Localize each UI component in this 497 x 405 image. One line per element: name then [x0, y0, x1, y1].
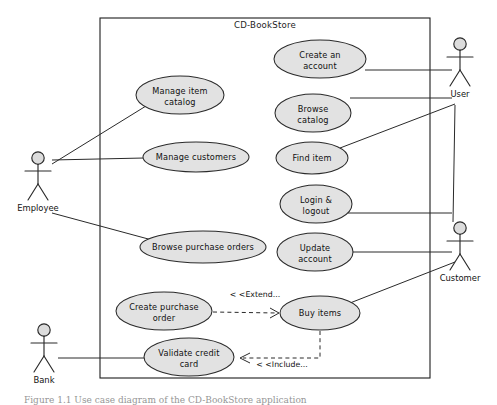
actor-label: Bank — [33, 375, 54, 385]
actor-leg-right — [460, 70, 470, 86]
use-case-create-an-account[interactable]: Create anaccount — [274, 40, 366, 78]
use-case-login-logout[interactable]: Login &logout — [280, 185, 352, 223]
association-employee-manage-item-catalog — [52, 106, 146, 164]
use-case-label-line2: card — [180, 359, 199, 369]
actor-leg-left — [450, 254, 460, 270]
use-case-label-line2: logout — [303, 206, 330, 216]
actor-head-icon — [38, 324, 50, 336]
actor-label: Customer — [440, 273, 481, 283]
use-case-label-line1: Browse purchase orders — [152, 242, 254, 252]
use-case-label-line1: Login & — [300, 195, 333, 205]
actor-head-icon — [454, 38, 466, 50]
use-case-label-line1: Buy items — [299, 308, 341, 318]
relationship-stereotype-label: < <Include... — [256, 360, 307, 369]
use-case-label-line1: Create purchase — [129, 302, 199, 312]
use-case-create-purchase-order[interactable]: Create purchaseorder — [116, 292, 212, 330]
actor-leg-right — [38, 184, 48, 200]
actor-employee[interactable]: Employee — [17, 152, 58, 213]
association-lines — [52, 70, 455, 358]
actor-bank[interactable]: Bank — [31, 324, 57, 385]
use-case-manage-customers[interactable]: Manage customers — [143, 142, 249, 172]
actor-user[interactable]: User — [447, 38, 473, 99]
use-case-label-line2: catalog — [164, 97, 195, 107]
use-case-find-item[interactable]: Find item — [276, 142, 348, 174]
actor-leg-left — [28, 184, 38, 200]
actor-label: Employee — [17, 203, 58, 213]
actor-head-icon — [454, 222, 466, 234]
use-case-browse-catalog[interactable]: Browsecatalog — [275, 94, 351, 132]
actor-leg-right — [460, 254, 470, 270]
actor-leg-left — [34, 356, 44, 372]
association-user-find-item — [340, 104, 455, 148]
use-case-label-line1: Find item — [292, 153, 331, 163]
actor-head-icon — [32, 152, 44, 164]
association-user-to-customer-region — [453, 105, 455, 222]
relationship-extend-create-purchase-order-buy-items: < <Extend... — [213, 290, 280, 318]
association-employee-browse-purchase-orders — [52, 213, 152, 240]
use-case-label-line1: Browse — [298, 104, 329, 114]
association-employee-manage-customers — [52, 158, 144, 160]
use-case-validate-credit-card[interactable]: Validate creditcard — [144, 338, 234, 376]
use-case-label-line1: Update — [300, 243, 331, 253]
use-case-label-line1: Manage item — [152, 86, 207, 96]
relationship-include-buy-items-validate-credit-card: < <Include... — [240, 331, 320, 369]
actor-leg-left — [450, 70, 460, 86]
use-case-label-line2: account — [303, 61, 337, 71]
actor-leg-right — [44, 356, 54, 372]
figure-caption: Figure 1.1 Use case diagram of the CD-Bo… — [24, 395, 307, 405]
relationship-stereotype-label: < <Extend... — [230, 290, 280, 299]
use-case-update-account[interactable]: Updateaccount — [277, 233, 353, 271]
use-case-label-line2: order — [153, 313, 176, 323]
relationship-path — [243, 331, 320, 358]
use-case-label-line2: catalog — [297, 115, 328, 125]
use-case-manage-item-catalog[interactable]: Manage itemcatalog — [136, 76, 224, 114]
relationship-path — [213, 312, 277, 313]
actor-label: User — [450, 89, 470, 99]
use-case-nodes: Create anaccountManage itemcatalogBrowse… — [116, 40, 366, 376]
use-case-label-line2: account — [298, 254, 332, 264]
actor-nodes: EmployeeBankUserCustomer — [17, 38, 481, 385]
use-case-label-line1: Create an — [299, 50, 340, 60]
use-case-buy-items[interactable]: Buy items — [280, 296, 360, 330]
use-case-label-line1: Manage customers — [156, 152, 236, 162]
system-boundary-title: CD-BookStore — [234, 20, 296, 30]
use-case-label-line1: Validate credit — [158, 348, 220, 358]
use-case-browse-purchase-orders[interactable]: Browse purchase orders — [140, 231, 266, 263]
